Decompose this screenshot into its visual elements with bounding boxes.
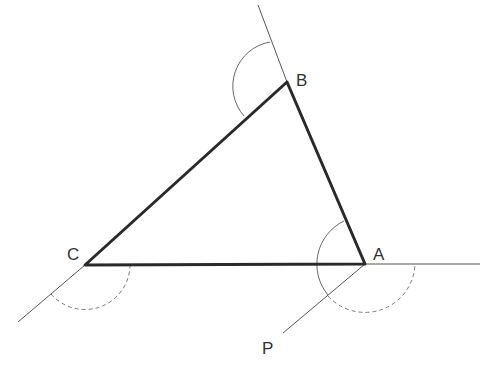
label-c: C (67, 245, 79, 264)
segment-ap (283, 264, 365, 333)
triangle-diagram: B A C P (0, 0, 493, 367)
angle-arc-a-solid (317, 221, 344, 295)
triangle-abc (85, 82, 365, 265)
label-a: A (373, 245, 385, 264)
angle-arc-c-dashed (51, 265, 130, 310)
angle-arc-a-dashed (328, 264, 415, 312)
extension-line-b (258, 5, 287, 82)
extension-line-c (18, 265, 85, 322)
angle-arc-b (233, 42, 270, 116)
label-p: P (262, 339, 273, 358)
label-b: B (296, 71, 307, 90)
